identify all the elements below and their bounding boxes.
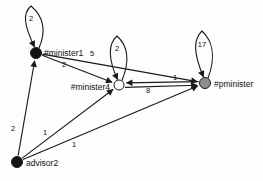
node-minister1 bbox=[31, 48, 42, 59]
self-loop-weight-minister1: 2 bbox=[29, 14, 33, 23]
node-minister4 bbox=[114, 80, 124, 90]
graph-svg: 25812112217#minister1#minister4#pministe… bbox=[0, 0, 263, 181]
edge-weight-minister1-to-pminister: 5 bbox=[90, 49, 94, 58]
self-loop-minister1 bbox=[25, 6, 42, 48]
edge-pminister-to-minister4 bbox=[126, 82, 198, 83]
edge-weight-minister1-to-minister4: 2 bbox=[62, 60, 66, 69]
node-label-minister4: #minister4 bbox=[71, 82, 110, 92]
self-loop-weight-pminister: 17 bbox=[198, 40, 206, 49]
node-label-advisor2: advisor2 bbox=[26, 158, 58, 168]
edge-weight-advisor2-to-minister1: 2 bbox=[11, 124, 15, 133]
edge-advisor2-to-minister1 bbox=[18, 61, 35, 156]
edge-minister4-to-pminister bbox=[125, 85, 197, 87]
node-label-minister1: #minister1 bbox=[44, 48, 83, 58]
self-loop-minister4 bbox=[110, 36, 127, 81]
node-pminister bbox=[200, 78, 211, 89]
edge-advisor2-to-minister4 bbox=[22, 90, 113, 159]
graph-diagram: 25812112217#minister1#minister4#pministe… bbox=[0, 0, 263, 181]
self-loop-weight-minister4: 2 bbox=[115, 44, 119, 53]
edge-minister1-to-minister4 bbox=[42, 55, 112, 82]
self-loop-pminister bbox=[196, 31, 213, 78]
edge-weight-advisor2-to-minister4: 1 bbox=[43, 128, 47, 137]
node-label-pminister: #pminister bbox=[214, 79, 253, 89]
edge-weight-pminister-to-minister4: 1 bbox=[173, 73, 177, 82]
edge-advisor2-to-pminister bbox=[23, 86, 198, 159]
node-advisor2 bbox=[12, 157, 23, 168]
edge-weight-minister4-to-pminister: 8 bbox=[146, 86, 150, 95]
edge-weight-advisor2-to-pminister: 1 bbox=[72, 140, 76, 149]
